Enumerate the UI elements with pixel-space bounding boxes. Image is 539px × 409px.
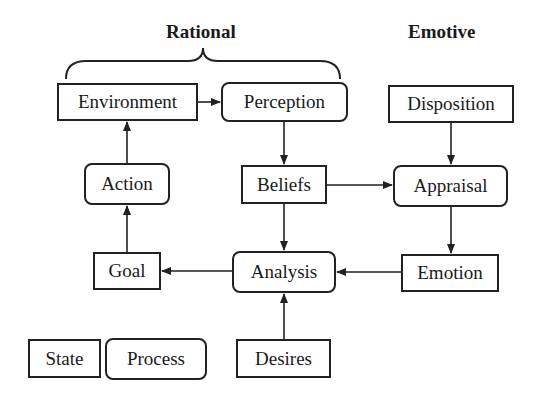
- emotive-heading: Emotive: [408, 21, 476, 43]
- node-goal: Goal: [93, 252, 161, 290]
- node-appraisal: Appraisal: [393, 165, 508, 207]
- node-desires: Desires: [236, 339, 331, 378]
- legend-process: Process: [105, 338, 207, 380]
- node-analysis: Analysis: [232, 251, 336, 293]
- node-beliefs: Beliefs: [241, 165, 327, 204]
- rational-heading: Rational: [166, 21, 236, 43]
- node-action: Action: [84, 163, 170, 205]
- node-disposition: Disposition: [388, 85, 514, 123]
- legend-state: State: [28, 339, 101, 378]
- rational-brace: [66, 48, 340, 79]
- node-emotion: Emotion: [401, 254, 499, 292]
- node-environment: Environment: [57, 83, 198, 121]
- node-perception: Perception: [221, 82, 348, 122]
